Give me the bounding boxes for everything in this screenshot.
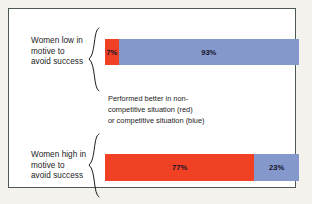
- stacked-bar-low-motive: 7% 93%: [105, 39, 299, 65]
- row-label-line: avoid success: [31, 171, 93, 182]
- row-label-low-motive: Women low in motive to avoid success: [31, 36, 93, 68]
- curly-brace-icon-bottom: [87, 133, 101, 199]
- bar-segment-competitive: 23%: [254, 154, 299, 181]
- chart-frame: Women low in motive to avoid success Wom…: [8, 8, 296, 188]
- caption-line: Performed better in non-: [108, 93, 268, 104]
- caption-line: or competitive situation (blue): [108, 115, 268, 126]
- row-label-line: motive to: [31, 47, 93, 58]
- row-label-line: avoid success: [31, 57, 93, 68]
- row-label-high-motive: Women high in motive to avoid success: [31, 150, 93, 182]
- curly-brace-icon-top: [87, 27, 101, 93]
- row-label-line: motive to: [31, 161, 93, 172]
- row-label-line: Women high in: [31, 150, 93, 161]
- bar-segment-competitive: 93%: [119, 39, 299, 65]
- stacked-bar-high-motive: 77% 23%: [105, 154, 299, 181]
- chart-caption: Performed better in non- competitive sit…: [108, 93, 268, 126]
- bar-segment-noncompetitive: 7%: [105, 39, 119, 65]
- caption-line: competitive situation (red): [108, 104, 268, 115]
- row-label-line: Women low in: [31, 36, 93, 47]
- figure-container: Women low in motive to avoid success Wom…: [0, 0, 312, 204]
- bar-segment-noncompetitive: 77%: [105, 154, 254, 181]
